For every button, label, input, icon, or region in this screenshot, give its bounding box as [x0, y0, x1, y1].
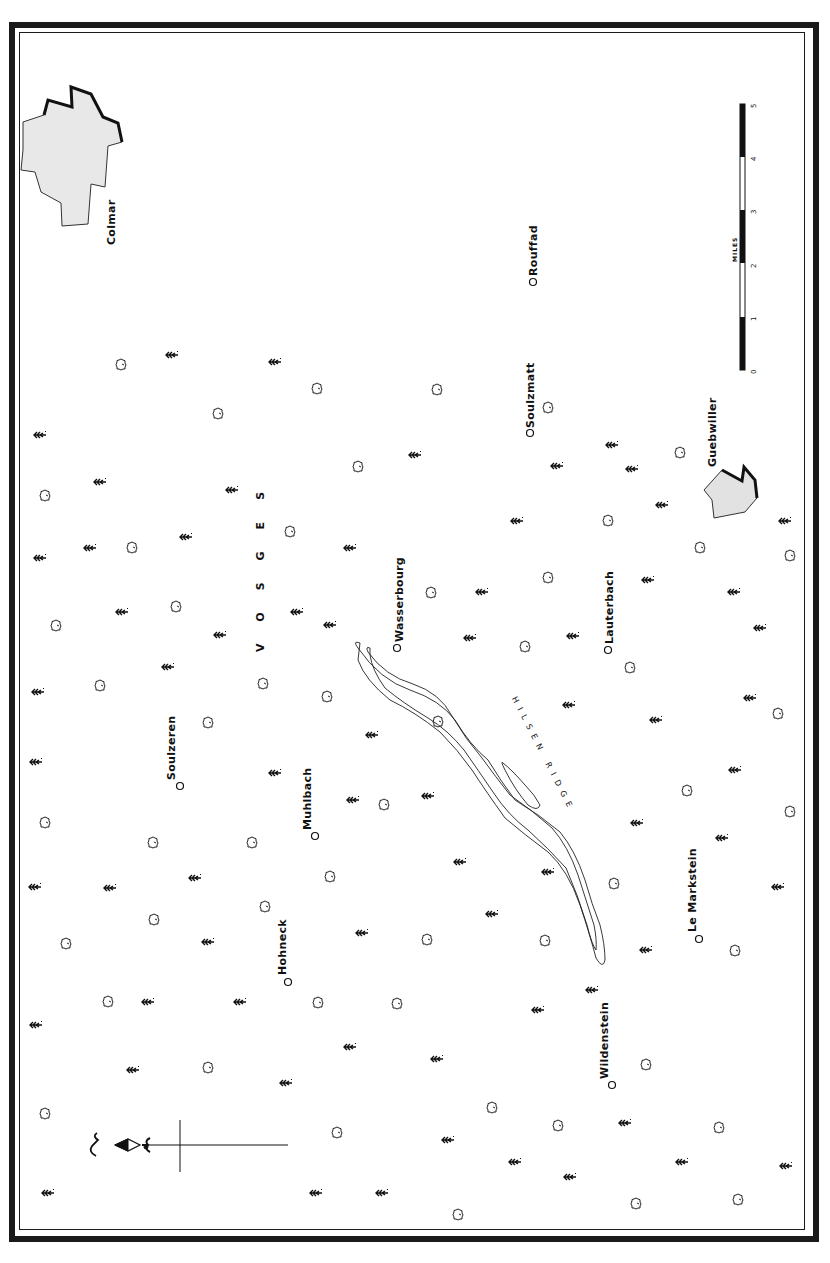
town-label-wildenstein: Wildenstein [598, 1002, 611, 1079]
town-markers [177, 279, 703, 1089]
town-label-soulzeren: Soulzeren [165, 716, 178, 780]
guebwiller-city-outline [704, 467, 757, 518]
town-label-hohneck: Hohneck [276, 919, 289, 975]
scale-unit-label: MILES [731, 237, 738, 262]
scale-tick-0: 0 [750, 370, 758, 374]
scale-tick-4: 4 [750, 157, 758, 161]
town-label-le-markstein: Le Markstein [686, 848, 699, 932]
region-label-vosges: VOSGES [254, 470, 267, 652]
town-label-wasserbourg: Wasserbourg [393, 557, 406, 642]
map-canvas [0, 0, 830, 1263]
town-label-lauterbach: Lauterbach [603, 571, 616, 644]
scale-tick-5: 5 [750, 104, 758, 108]
forest-tree-symbols [29, 351, 792, 1196]
town-label-soulzmatt: Soulzmatt [524, 362, 537, 428]
scale-tick-3: 3 [750, 210, 758, 214]
town-label-colmar: Colmar [105, 199, 118, 245]
town-label-guebwiller: Guebwiller [706, 397, 719, 467]
north-arrow [91, 1120, 288, 1172]
town-label-muhlbach: Muhlbach [301, 768, 314, 830]
scale-tick-1: 1 [750, 317, 758, 321]
town-label-rouffad: Rouffad [527, 225, 540, 276]
deciduous-bush-symbols [40, 359, 795, 1220]
scale-bar [740, 104, 745, 370]
scale-tick-2: 2 [750, 264, 758, 268]
